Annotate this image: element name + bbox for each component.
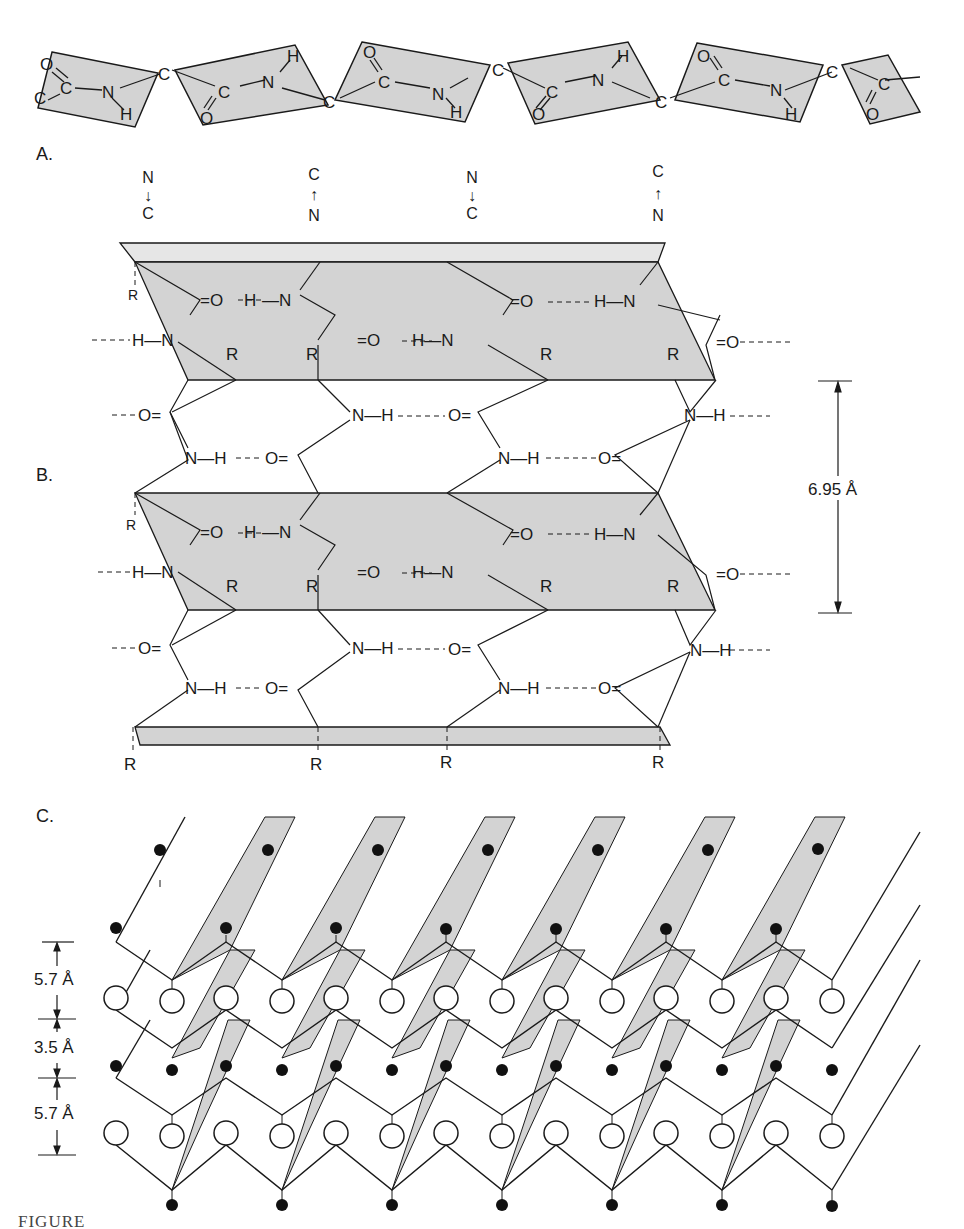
pleated-sheet-figure: OCC NH C CO NH C OC NH C CO NH C OC NH C… bbox=[0, 0, 964, 1229]
dimension-label-3-5: 3.5 Å bbox=[32, 1038, 76, 1058]
figure-caption-partial: FIGURE bbox=[18, 1212, 85, 1229]
dimension-label-5-7-bottom: 5.7 Å bbox=[32, 1104, 76, 1124]
panel-c-stacked-sheets bbox=[0, 0, 964, 1229]
dimension-label-5-7-top: 5.7 Å bbox=[32, 970, 76, 990]
